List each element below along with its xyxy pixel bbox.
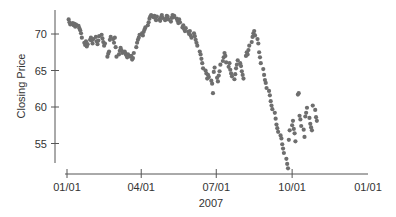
data-point bbox=[217, 69, 221, 73]
data-point bbox=[299, 124, 303, 128]
data-point bbox=[218, 63, 222, 67]
data-point bbox=[264, 81, 268, 85]
data-point bbox=[198, 52, 202, 56]
data-point bbox=[114, 45, 118, 49]
scatter-chart: 55606570 Closing Price 01/0104/0107/0110… bbox=[0, 0, 396, 217]
data-points bbox=[67, 13, 319, 171]
data-point bbox=[290, 123, 294, 127]
data-point bbox=[195, 44, 199, 48]
data-point bbox=[86, 42, 90, 46]
data-point bbox=[213, 65, 217, 69]
data-point bbox=[247, 44, 251, 48]
data-point bbox=[302, 135, 306, 139]
data-point bbox=[288, 128, 292, 132]
data-point bbox=[293, 139, 297, 143]
data-point bbox=[100, 33, 104, 37]
data-point bbox=[273, 111, 277, 115]
data-point bbox=[284, 157, 288, 161]
data-point bbox=[261, 67, 265, 71]
data-point bbox=[297, 114, 301, 118]
data-point bbox=[223, 54, 227, 58]
data-point bbox=[262, 73, 266, 77]
data-point bbox=[96, 38, 100, 42]
x-tick-label: 07/01 bbox=[202, 181, 230, 193]
data-point bbox=[107, 49, 111, 53]
data-point bbox=[311, 103, 315, 107]
data-point bbox=[211, 91, 215, 95]
data-point bbox=[200, 61, 204, 65]
data-point bbox=[269, 99, 273, 103]
data-point bbox=[276, 130, 280, 134]
data-point bbox=[282, 151, 286, 155]
data-point bbox=[269, 103, 273, 107]
data-point bbox=[210, 82, 214, 86]
data-point bbox=[255, 37, 259, 41]
data-point bbox=[293, 131, 297, 135]
data-point bbox=[232, 77, 236, 81]
data-point bbox=[132, 51, 136, 55]
data-point bbox=[217, 74, 221, 78]
data-point bbox=[216, 79, 220, 83]
y-tick-label: 55 bbox=[35, 138, 47, 150]
data-point bbox=[239, 64, 243, 68]
data-point bbox=[227, 61, 231, 65]
data-point bbox=[184, 26, 188, 30]
x-tick-label: 01/01 bbox=[53, 181, 81, 193]
data-point bbox=[307, 116, 311, 120]
data-point bbox=[178, 20, 182, 24]
data-point bbox=[274, 117, 278, 121]
data-point bbox=[134, 45, 138, 49]
data-point bbox=[286, 166, 290, 170]
data-point bbox=[250, 40, 254, 44]
data-point bbox=[90, 41, 94, 45]
x-tick-label: 04/01 bbox=[127, 181, 155, 193]
data-point bbox=[279, 136, 283, 140]
data-point bbox=[100, 36, 104, 40]
data-point bbox=[313, 108, 317, 112]
data-point bbox=[253, 33, 257, 37]
data-point bbox=[147, 20, 151, 24]
x-axis-label: 2007 bbox=[199, 197, 223, 209]
data-point bbox=[274, 122, 278, 126]
data-point bbox=[241, 76, 245, 80]
data-point bbox=[267, 89, 271, 93]
data-point bbox=[199, 57, 203, 61]
data-point bbox=[112, 41, 116, 45]
data-point bbox=[240, 69, 244, 73]
data-point bbox=[80, 36, 84, 40]
data-point bbox=[298, 117, 302, 121]
y-tick-label: 65 bbox=[35, 65, 47, 77]
data-point bbox=[131, 56, 135, 60]
x-axis-ticks: 01/0104/0107/0110/0101/01 bbox=[53, 169, 382, 193]
data-point bbox=[275, 126, 279, 130]
data-point bbox=[310, 128, 314, 132]
data-point bbox=[297, 91, 301, 95]
data-point bbox=[258, 55, 262, 59]
data-point bbox=[259, 61, 263, 65]
data-point bbox=[141, 33, 145, 37]
data-point bbox=[95, 42, 99, 46]
data-point bbox=[246, 52, 250, 56]
data-point bbox=[233, 72, 237, 76]
x-tick-label: 01/01 bbox=[354, 181, 382, 193]
data-point bbox=[188, 29, 192, 33]
data-point bbox=[304, 111, 308, 115]
data-point bbox=[314, 115, 318, 119]
data-point bbox=[256, 41, 260, 45]
data-point bbox=[113, 36, 117, 40]
data-point bbox=[169, 19, 173, 23]
data-point bbox=[103, 41, 107, 45]
data-point bbox=[234, 66, 238, 70]
data-point bbox=[207, 75, 211, 79]
data-point bbox=[305, 106, 309, 110]
y-tick-label: 70 bbox=[35, 28, 47, 40]
data-point bbox=[246, 48, 250, 52]
data-point bbox=[291, 119, 295, 123]
data-point bbox=[280, 142, 284, 146]
y-tick-label: 60 bbox=[35, 101, 47, 113]
data-point bbox=[252, 29, 256, 33]
y-axis-label: Closing Price bbox=[15, 54, 27, 119]
data-point bbox=[281, 147, 285, 151]
data-point bbox=[315, 119, 319, 123]
data-point bbox=[270, 107, 274, 111]
